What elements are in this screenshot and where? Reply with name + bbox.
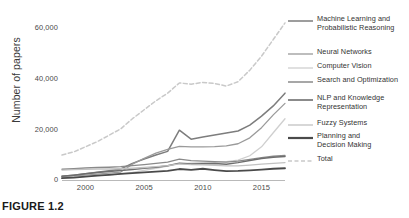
series-line (62, 155, 285, 169)
legend-item[interactable]: Neural Networks (288, 47, 372, 57)
y-axis-tick-label: 40,000 (16, 74, 58, 83)
legend-swatch-icon (288, 19, 313, 23)
legend-item-label: Neural Networks (317, 47, 372, 57)
legend-item[interactable]: NLP and Knowledge Representation (288, 93, 384, 111)
x-axis-tick-label: 2000 (77, 183, 94, 192)
plot-area (62, 14, 285, 180)
legend-item[interactable]: Computer Vision (288, 61, 372, 71)
chart-legend: Machine Learning and Probabilistic Reaso… (288, 6, 409, 154)
legend-swatch-icon (288, 66, 313, 70)
legend-item-label: Planning and Decision Making (317, 131, 371, 149)
y-axis-tick-label: 60,000 (16, 23, 58, 32)
x-axis-line (62, 180, 285, 181)
x-axis-tick-label: 2010 (194, 183, 211, 192)
legend-item-label: Fuzzy Systems (317, 118, 367, 128)
figure-container: Number of papers 20,00040,00060,000 0 20… (0, 0, 409, 218)
legend-swatch-icon (288, 159, 313, 163)
legend-item-label: Computer Vision (317, 61, 372, 71)
line-chart: Number of papers 20,00040,00060,000 0 20… (0, 0, 300, 196)
legend-item-label: Search and Optimization (317, 75, 398, 85)
legend-swatch-icon (288, 136, 313, 140)
legend-swatch-icon (288, 123, 313, 127)
legend-swatch-icon (288, 80, 313, 84)
figure-caption: FIGURE 1.2 (2, 200, 64, 212)
legend-item[interactable]: Machine Learning and Probabilistic Reaso… (288, 14, 394, 32)
legend-item-label: NLP and Knowledge Representation (317, 93, 384, 111)
series-line (62, 23, 285, 155)
legend-swatch-icon (288, 98, 313, 102)
legend-item-label: Total (317, 154, 333, 164)
legend-item[interactable]: Fuzzy Systems (288, 118, 367, 128)
legend-item[interactable]: Planning and Decision Making (288, 131, 371, 149)
series-lines (62, 14, 285, 180)
y-axis-tick-label-zero: 0 (46, 175, 58, 184)
y-axis-tick-labels: 20,00040,00060,000 (12, 0, 58, 196)
x-axis-tick-labels: 2000200520102015 (62, 182, 285, 196)
legend-item[interactable]: Search and Optimization (288, 75, 398, 85)
x-axis-tick-label: 2005 (136, 183, 153, 192)
legend-item[interactable]: Total (288, 154, 333, 164)
y-axis-tick-label: 20,000 (16, 125, 58, 134)
legend-item-label: Machine Learning and Probabilistic Reaso… (317, 14, 394, 32)
legend-swatch-icon (288, 52, 313, 56)
x-axis-tick-label: 2015 (253, 183, 270, 192)
